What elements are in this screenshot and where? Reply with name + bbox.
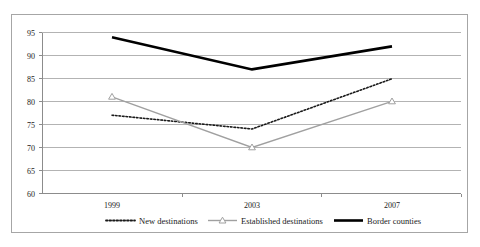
x-tick-label-1999: 1999: [104, 201, 120, 210]
y-tick-label-65: 65: [27, 167, 35, 176]
series-line-new-destinations: [112, 79, 392, 129]
x-tick-label-2003: 2003: [244, 201, 260, 210]
y-tick-label-85: 85: [27, 75, 35, 84]
y-tickmarks: [39, 33, 42, 194]
x-tick-label-2007: 2007: [384, 201, 400, 210]
chart-figure: 95 90 85 80 75 70 65 60 1999 2003 2007 N…: [11, 14, 468, 233]
legend-item-border-counties[interactable]: Border counties: [334, 216, 421, 226]
chart-legend: New destinations Established destination…: [106, 216, 421, 226]
y-tick-label-90: 90: [27, 52, 35, 61]
legend-item-established-destinations[interactable]: Established destinations: [208, 216, 323, 226]
legend-label-border-counties: Border counties: [367, 216, 421, 226]
legend-item-new-destinations[interactable]: New destinations: [106, 216, 198, 226]
legend-label-established-destinations: Established destinations: [241, 216, 323, 226]
x-tickmarks: [183, 194, 462, 198]
y-tick-label-60: 60: [27, 190, 35, 199]
series-line-border-counties: [112, 37, 392, 69]
y-tick-label-75: 75: [27, 121, 35, 130]
series-marker-established-2007: [389, 98, 396, 104]
series-marker-established-1999: [109, 93, 116, 99]
y-tick-label-80: 80: [27, 98, 35, 107]
y-tick-label-70: 70: [27, 144, 35, 153]
series-line-established-destinations: [112, 97, 392, 148]
line-chart: 95 90 85 80 75 70 65 60 1999 2003 2007 N…: [12, 15, 469, 234]
legend-label-new-destinations: New destinations: [139, 216, 198, 226]
y-tick-label-95: 95: [27, 29, 35, 38]
